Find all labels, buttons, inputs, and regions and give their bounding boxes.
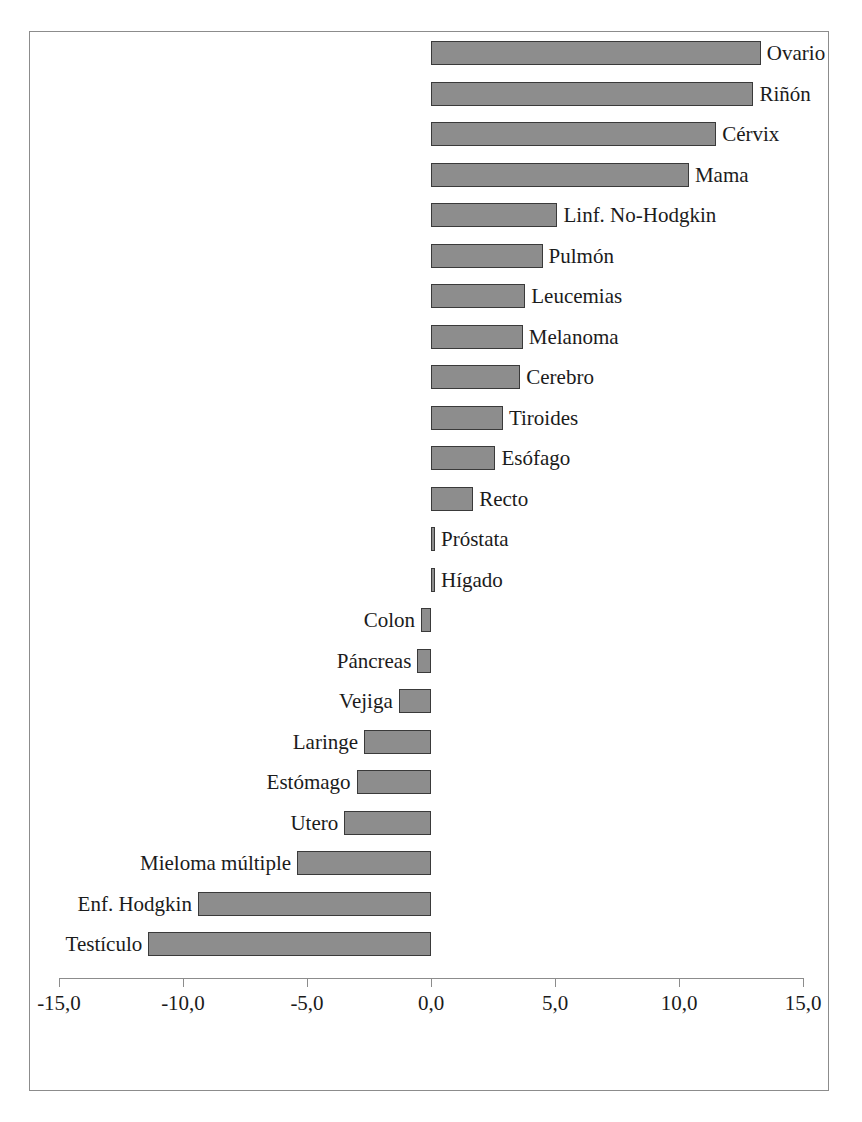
bar-label: Melanoma <box>529 325 619 349</box>
bar-row: Enf. Hodgkin <box>0 892 862 916</box>
bar-row: Linf. No-Hodgkin <box>0 203 862 227</box>
bar-est-mago[interactable] <box>357 770 431 794</box>
bar-label: Hígado <box>441 568 503 592</box>
bar-row: Testículo <box>0 932 862 956</box>
bar-label: Esófago <box>501 446 570 470</box>
bar-row: Mama <box>0 163 862 187</box>
bar-utero[interactable] <box>344 811 431 835</box>
bar-label: Tiroides <box>509 406 578 430</box>
bar-enf-hodgkin[interactable] <box>198 892 431 916</box>
bar-label: Enf. Hodgkin <box>78 892 192 916</box>
bar-label: Testículo <box>66 932 143 956</box>
bar-tiroides[interactable] <box>431 406 503 430</box>
bar-row: Leucemias <box>0 284 862 308</box>
bar-row: Colon <box>0 608 862 632</box>
bars-area: OvarioRiñónCérvixMamaLinf. No-HodgkinPul… <box>0 0 862 1122</box>
bar-label: Laringe <box>293 730 358 754</box>
bar-colon[interactable] <box>421 608 431 632</box>
bar-row: Utero <box>0 811 862 835</box>
bar-label: Leucemias <box>531 284 622 308</box>
bar-label: Recto <box>479 487 528 511</box>
bar-leucemias[interactable] <box>431 284 525 308</box>
bar-es-fago[interactable] <box>431 446 495 470</box>
bar-melanoma[interactable] <box>431 325 523 349</box>
bar-label: Estómago <box>267 770 351 794</box>
bar-label: Mieloma múltiple <box>140 851 291 875</box>
bar-mieloma-m-ltiple[interactable] <box>297 851 431 875</box>
bar-label: Cerebro <box>526 365 594 389</box>
bar-pulm-n[interactable] <box>431 244 543 268</box>
bar-label: Páncreas <box>337 649 412 673</box>
bar-label: Cérvix <box>722 122 779 146</box>
bar-row: Páncreas <box>0 649 862 673</box>
bar-row: Cerebro <box>0 365 862 389</box>
bar-label: Ovario <box>767 41 825 65</box>
bar-row: Hígado <box>0 568 862 592</box>
bar-row: Riñón <box>0 82 862 106</box>
bar-chart-figure: OvarioRiñónCérvixMamaLinf. No-HodgkinPul… <box>0 0 862 1122</box>
bar-row: Vejiga <box>0 689 862 713</box>
bar-row: Ovario <box>0 41 862 65</box>
bar-pr-stata[interactable] <box>431 527 435 551</box>
bar-label: Próstata <box>441 527 509 551</box>
bar-laringe[interactable] <box>364 730 431 754</box>
bar-row: Laringe <box>0 730 862 754</box>
bar-recto[interactable] <box>431 487 473 511</box>
bar-linf-no-hodgkin[interactable] <box>431 203 557 227</box>
bar-label: Vejiga <box>339 689 393 713</box>
bar-label: Linf. No-Hodgkin <box>563 203 716 227</box>
bar-label: Colon <box>364 608 415 632</box>
bar-label: Utero <box>290 811 338 835</box>
bar-test-culo[interactable] <box>148 932 431 956</box>
bar-row: Estómago <box>0 770 862 794</box>
bar-h-gado[interactable] <box>431 568 435 592</box>
bar-cerebro[interactable] <box>431 365 520 389</box>
bar-row: Mieloma múltiple <box>0 851 862 875</box>
bar-row: Cérvix <box>0 122 862 146</box>
bar-label: Riñón <box>759 82 810 106</box>
bar-label: Pulmón <box>549 244 614 268</box>
bar-c-rvix[interactable] <box>431 122 716 146</box>
bar-mama[interactable] <box>431 163 689 187</box>
bar-ri-n[interactable] <box>431 82 753 106</box>
bar-row: Melanoma <box>0 325 862 349</box>
bar-row: Tiroides <box>0 406 862 430</box>
bar-row: Próstata <box>0 527 862 551</box>
bar-row: Pulmón <box>0 244 862 268</box>
bar-vejiga[interactable] <box>399 689 431 713</box>
bar-label: Mama <box>695 163 749 187</box>
bar-row: Esófago <box>0 446 862 470</box>
bar-p-ncreas[interactable] <box>417 649 431 673</box>
bar-ovario[interactable] <box>431 41 761 65</box>
bar-row: Recto <box>0 487 862 511</box>
